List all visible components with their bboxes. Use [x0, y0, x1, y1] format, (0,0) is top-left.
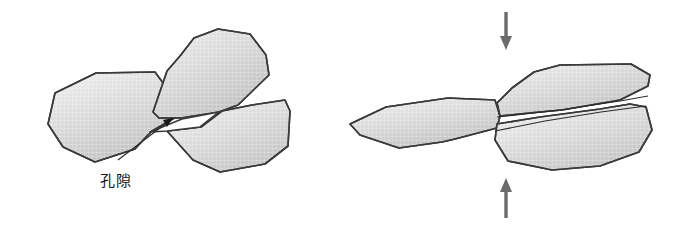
- figure-root: 孔隙: [0, 0, 686, 230]
- load-arrow-up: [500, 178, 512, 218]
- pore-compression-figure: 孔隙: [0, 0, 686, 230]
- load-arrow-up-head: [500, 178, 512, 192]
- left-panel-uncompressed: 孔隙: [48, 29, 290, 190]
- load-arrow-down-head: [500, 36, 512, 50]
- right-panel-compressed: [350, 12, 652, 218]
- load-arrow-down: [500, 12, 512, 50]
- grain-right-west-texture: [350, 98, 500, 148]
- pore-callout-label: 孔隙: [100, 172, 131, 190]
